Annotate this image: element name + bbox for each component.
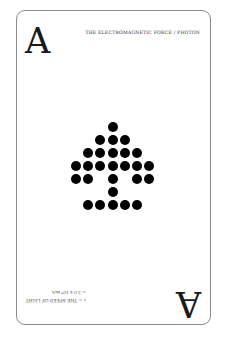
pip-dot	[108, 187, 118, 197]
rank-top: A	[25, 24, 50, 59]
pip-dot	[120, 148, 130, 158]
pip-dot	[120, 200, 130, 210]
pip-dot	[108, 174, 118, 184]
pip-dot	[108, 122, 118, 132]
pip-dot	[132, 174, 142, 184]
pip-dot	[108, 148, 118, 158]
pip-dot	[108, 161, 118, 171]
pip-dot	[71, 174, 81, 184]
pip-dot	[71, 161, 81, 171]
card-footer: c = THE SPEED OF LIGHT = 3.0 x 10⁸ m/s	[26, 288, 86, 304]
pip-dot	[108, 135, 118, 145]
pip-dot	[132, 148, 142, 158]
card-title: THE ELECTROMAGNETIC FORCE / PHOTON	[85, 30, 200, 35]
footer-line-2: = 3.0 x 10⁸ m/s	[26, 288, 86, 296]
pip-dot	[132, 161, 142, 171]
rank-bottom: A	[176, 286, 201, 321]
pip-dot	[108, 200, 118, 210]
pip-dot	[120, 161, 130, 171]
footer-line-1: c = THE SPEED OF LIGHT	[26, 296, 86, 304]
pip-dot	[120, 135, 130, 145]
pip-dot	[132, 200, 142, 210]
